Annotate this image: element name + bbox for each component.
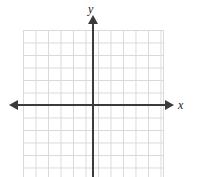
y-axis-label: y [88,3,93,15]
y-axis-up-arrow-icon [88,15,98,24]
coordinate-plane-figure: x y [0,0,199,177]
x-axis-right-arrow-icon [165,100,174,110]
x-axis-left-arrow-icon [9,100,18,110]
y-axis-line [92,22,94,177]
x-axis-label: x [178,99,183,111]
